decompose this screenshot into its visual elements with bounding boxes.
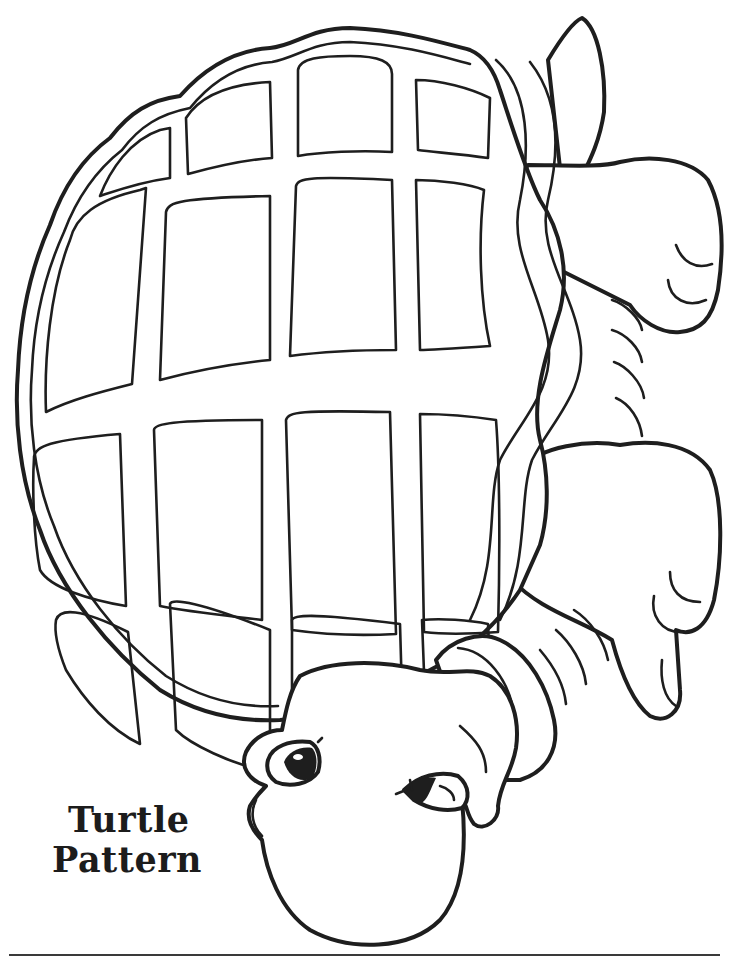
title-line-pattern: Pattern xyxy=(52,840,202,880)
coloring-page: Turtle Pattern xyxy=(0,0,736,964)
title-line-turtle: Turtle xyxy=(52,800,202,840)
page-title: Turtle Pattern xyxy=(52,800,202,880)
bottom-divider xyxy=(9,954,720,956)
